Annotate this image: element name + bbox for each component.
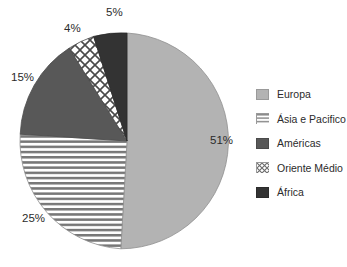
data-label-americas: 15%	[11, 71, 34, 83]
legend-label-europa: Europa	[277, 89, 311, 100]
legend-item-oriente-medio[interactable]: Oriente Médio	[256, 156, 347, 181]
legend-label-asia-e-pacifico: Ásia e Pacifico	[277, 114, 346, 125]
data-label-asia-e-pacifico: 25%	[22, 212, 45, 224]
asia-pacifico-swatch-icon	[256, 113, 269, 124]
legend-label-americas: Américas	[277, 138, 321, 149]
legend-item-americas[interactable]: Américas	[256, 131, 347, 156]
legend-label-africa: África	[277, 187, 304, 198]
americas-swatch-icon	[256, 138, 269, 149]
pie-slice-asia-e-pacifico	[20, 134, 127, 249]
africa-swatch-icon	[256, 187, 269, 198]
legend-item-europa[interactable]: Europa	[256, 82, 347, 107]
europa-swatch-icon	[256, 89, 269, 100]
data-label-europa: 51%	[210, 134, 233, 146]
pie-chart-figure: 51% 25% 15% 4% 5% Europa Ásia e Pacifico…	[0, 0, 347, 267]
oriente-medio-swatch-icon	[256, 162, 269, 173]
data-label-oriente-medio: 4%	[64, 22, 81, 34]
legend-item-asia-e-pacifico[interactable]: Ásia e Pacifico	[256, 107, 347, 132]
legend-item-africa[interactable]: África	[256, 180, 347, 205]
data-label-africa: 5%	[106, 6, 123, 18]
legend-label-oriente-medio: Oriente Médio	[277, 163, 343, 174]
chart-legend: Europa Ásia e Pacifico Américas Oriente …	[256, 82, 347, 205]
